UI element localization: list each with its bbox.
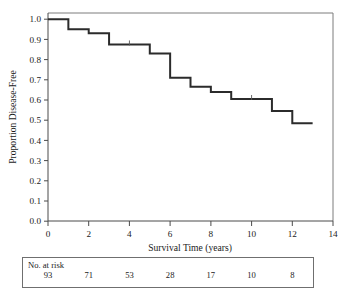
risk-table-count: 17	[207, 270, 216, 280]
y-axis-title: Proportion Disease-Free	[7, 70, 18, 164]
x-axis-title: Survival Time (years)	[148, 242, 232, 254]
censoring-marks	[129, 40, 251, 100]
risk-table-count: 28	[166, 270, 175, 280]
plot-frame	[48, 13, 333, 221]
y-tick-label: 0.5	[30, 115, 42, 125]
y-tick-label: 0.6	[30, 95, 42, 105]
x-tick-label: 0	[46, 229, 51, 239]
survival-chart: 1.0 0.9 0.8 0.7 0.6 0.5 0.4 0.3 0.2 0.1 …	[0, 0, 349, 294]
x-tick-label: 6	[168, 229, 173, 239]
x-tick-label: 10	[247, 229, 257, 239]
risk-table-values: 9371532817108	[44, 270, 295, 280]
y-tick-label: 1.0	[30, 14, 42, 24]
y-tick-label: 0.8	[30, 55, 42, 65]
y-tick-label: 0.3	[30, 156, 42, 166]
survival-step-curve	[48, 19, 313, 123]
risk-table-count: 71	[84, 270, 93, 280]
x-tick-label: 8	[209, 229, 214, 239]
y-tick-label: 0.7	[30, 75, 42, 85]
y-tick-label: 0.1	[30, 196, 42, 206]
x-tick-label: 12	[288, 229, 298, 239]
risk-table-count: 8	[290, 270, 294, 280]
y-tick-label: 0.2	[30, 176, 42, 186]
x-axis-ticks: 0 2 4 6 8 10 12 14	[46, 221, 338, 239]
x-tick-label: 2	[86, 229, 91, 239]
y-tick-label: 0.0	[30, 216, 42, 226]
risk-table-count: 10	[247, 270, 256, 280]
kaplan-meier-figure: 1.0 0.9 0.8 0.7 0.6 0.5 0.4 0.3 0.2 0.1 …	[0, 0, 349, 294]
y-tick-label: 0.4	[30, 136, 42, 146]
y-axis-ticks: 1.0 0.9 0.8 0.7 0.6 0.5 0.4 0.3 0.2 0.1 …	[30, 14, 48, 226]
risk-table-count: 93	[44, 270, 53, 280]
y-tick-label: 0.9	[30, 35, 42, 45]
risk-table-count: 53	[125, 270, 134, 280]
x-tick-label: 4	[127, 229, 132, 239]
risk-table-label: No. at risk	[28, 260, 65, 270]
x-tick-label: 14	[328, 229, 338, 239]
